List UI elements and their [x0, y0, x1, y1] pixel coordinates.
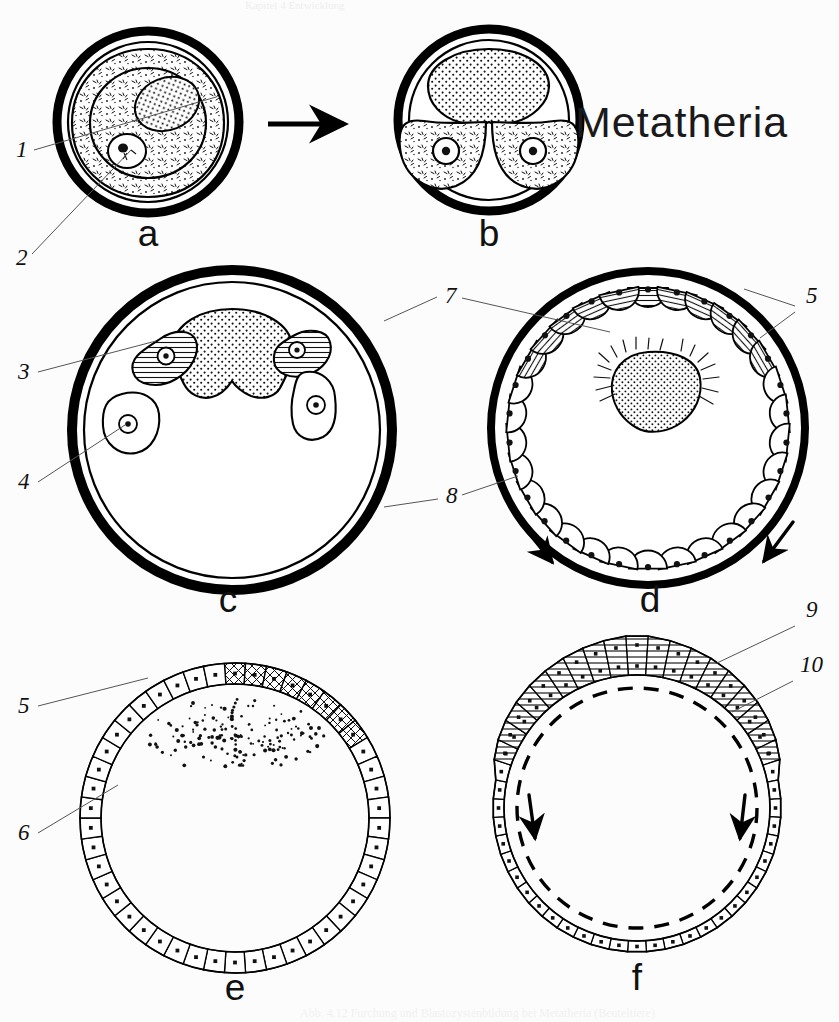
figure-plate: Kapitel 4 Entwicklung Abb. 4.12 Furchung…: [0, 0, 839, 1022]
yolk-granule-e: [197, 721, 199, 723]
yolk-granule-e: [223, 707, 227, 711]
panel-f-bilaminar: f: [493, 636, 780, 998]
cell-nucleus-f: [551, 916, 555, 920]
yolk-granule-e: [250, 742, 253, 745]
yolk-granule-e: [275, 719, 277, 721]
blastocyst-cell-ring-f: [493, 636, 780, 952]
cell-nucleus-e: [324, 928, 328, 932]
cell-nucleus-f: [515, 875, 519, 879]
yolk-granule-e: [280, 713, 282, 715]
yolk-granule-e: [204, 714, 206, 716]
yolk-granule-e: [182, 763, 186, 767]
blastomere-nucleus-d: [512, 468, 518, 474]
cell-nucleus-e: [213, 673, 217, 677]
cell-nucleus-e: [158, 940, 162, 944]
yolk-granule-e: [184, 740, 186, 742]
nucleolus-a: [118, 143, 128, 152]
panel-e-blastocyst: e: [80, 663, 390, 1008]
yolk-granule-e: [202, 719, 205, 722]
yolk-granule-e: [202, 755, 205, 758]
yolk-granule-e: [192, 729, 194, 731]
cell-nucleus-f: [499, 770, 503, 774]
yolk-granule-e: [248, 737, 250, 739]
cell-nucleus-f: [549, 694, 553, 698]
cell-nucleus-e: [142, 928, 146, 932]
ref-2-nucleus: 2: [16, 245, 28, 270]
cell-nucleus-f: [742, 699, 746, 703]
cell-nucleus-f: [498, 824, 502, 828]
cell-nucleus-f: [581, 675, 585, 679]
yolk-granule-e: [317, 726, 321, 730]
cell-nucleus-e: [97, 864, 101, 868]
cell-nucleus-e: [115, 899, 119, 903]
blastomere-nucleus-d: [616, 561, 622, 567]
cell-nucleus-f: [594, 652, 598, 656]
blastomere-nucleus-d: [524, 495, 530, 501]
yolk-granule-e: [214, 745, 218, 749]
yolk-granule-e: [231, 761, 234, 764]
yolk-granule-e: [242, 759, 245, 762]
yolk-granule-e: [175, 728, 179, 732]
blastomere-nucleus-d: [541, 518, 547, 524]
yolk-granule-e: [280, 734, 283, 737]
yolk-granule-e: [176, 739, 180, 743]
yolk-granule-e: [239, 751, 242, 754]
cell-nucleus-e: [377, 806, 381, 810]
cell-nucleus-f: [771, 770, 775, 774]
cell-nucleus-f: [745, 891, 749, 895]
yolk-granule-e: [180, 734, 183, 737]
cell-nucleus-f: [748, 720, 752, 724]
cell-nucleus-e: [272, 955, 276, 959]
inner-contour-e: [101, 684, 369, 952]
cell-nucleus-f: [763, 859, 767, 863]
cell-nucleus-e: [233, 961, 237, 965]
yolk-granule-e: [253, 753, 256, 756]
cell-nucleus-f: [755, 875, 759, 879]
blastomere-nucleus-d: [588, 552, 594, 558]
cell-nucleus-e: [308, 693, 312, 697]
blastomere-nucleus-d: [765, 356, 771, 362]
yolk-granule-e: [220, 747, 223, 750]
cell-nucleus-f: [635, 945, 639, 949]
yolk-granule-e: [227, 716, 229, 718]
cell-nucleus-e: [127, 915, 131, 919]
cell-nucleus-f: [769, 842, 773, 846]
yolk-granule-e: [292, 717, 296, 721]
cell-nucleus-f: [617, 665, 621, 669]
yolk-granule-e: [322, 734, 325, 737]
yolk-granule-e: [250, 729, 253, 732]
cell-nucleus-e: [253, 673, 257, 677]
yolk-granule-e: [283, 720, 286, 723]
cell-nucleus-f: [767, 751, 771, 755]
blastomere-nucleus-d: [674, 561, 680, 567]
yolk-granule-e: [274, 758, 277, 761]
yolk-granule-e: [157, 719, 159, 721]
ref-5-embryonic-cells: 5: [18, 693, 30, 718]
yolk-granule-e: [210, 735, 214, 739]
yolk-granule-e: [267, 746, 269, 748]
yolk-granule-e: [242, 754, 244, 756]
yolk-granule-e: [283, 747, 285, 749]
cell-nucleus-f: [523, 720, 527, 724]
yolk-granule-cloud-e: [148, 698, 325, 768]
cell-nucleus-f: [671, 940, 675, 944]
yolk-granule-e: [204, 707, 206, 709]
yolk-granule-e: [189, 741, 192, 744]
cell-nucleus-f: [729, 684, 733, 688]
yolk-granule-e: [232, 705, 235, 708]
cell-nucleus-f: [537, 904, 541, 908]
cell-nucleus-f: [598, 669, 602, 673]
yolk-granule-e: [269, 743, 272, 746]
nucleolus-right-b: [529, 147, 537, 155]
yolk-mass-b: [428, 49, 549, 125]
blastomere-nucleus-d: [674, 289, 680, 295]
yolk-granule-e: [226, 753, 229, 756]
yolk-granule-e: [211, 704, 213, 706]
yolk-granule-e: [203, 728, 206, 731]
yolk-granule-e: [174, 749, 177, 752]
blastomere-nucleus-d: [525, 356, 531, 362]
cell-nucleus-e: [308, 940, 312, 944]
cell-nucleus-f: [762, 733, 766, 737]
cell-nucleus-e: [324, 704, 328, 708]
yolk-granule-e: [217, 736, 221, 740]
